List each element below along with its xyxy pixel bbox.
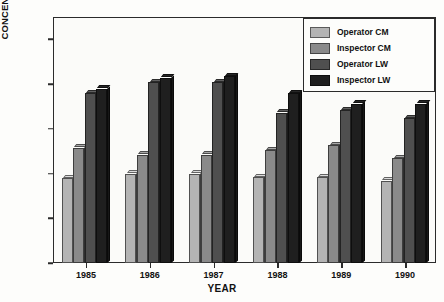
- bar-1990-operator-cm: [381, 181, 392, 263]
- x-tick-mark: [214, 263, 216, 268]
- bar-side: [171, 75, 174, 263]
- legend-swatch: [310, 59, 330, 70]
- bar-1985-inspector-cm: [73, 148, 84, 263]
- bar-side: [235, 73, 238, 263]
- bar-1989-operator-lw: [340, 110, 351, 263]
- bar-face: [189, 174, 200, 263]
- legend-label: Operator LW: [337, 59, 388, 69]
- bar-face: [276, 113, 287, 263]
- bar-face: [381, 181, 392, 263]
- bar-1988-operator-lw: [276, 113, 287, 263]
- legend-swatch: [310, 43, 330, 54]
- bar-1990-operator-lw: [404, 118, 415, 263]
- x-tick-label: 1987: [184, 270, 244, 280]
- legend-label: Inspector CM: [337, 43, 391, 53]
- y-axis-title-text: CONCENTRATION, mg/m: [0, 0, 10, 39]
- bar-1985-inspector-lw: [96, 89, 107, 263]
- bar-face: [85, 93, 96, 263]
- bar-face: [328, 145, 339, 263]
- bar-face: [96, 89, 107, 263]
- bar-1988-inspector-cm: [265, 150, 276, 263]
- bar-1989-inspector-cm: [328, 145, 339, 263]
- bar-face: [160, 78, 171, 263]
- bar-side: [107, 86, 110, 263]
- bar-side: [299, 90, 302, 263]
- x-tick-label: 1985: [56, 270, 116, 280]
- bar-face: [73, 148, 84, 263]
- bar-face: [224, 76, 235, 263]
- bar-1985-operator-cm: [62, 178, 73, 263]
- bar-face: [415, 104, 426, 263]
- bar-face: [404, 118, 415, 263]
- bar-1989-operator-cm: [317, 177, 328, 263]
- chart-root: CONCENTRATION, mg/m3 0.51.01.52.02.5 198…: [0, 0, 444, 302]
- bar-1987-operator-lw: [212, 82, 223, 263]
- bar-1987-inspector-cm: [201, 155, 212, 263]
- legend-swatch: [310, 75, 330, 86]
- legend: Operator CMInspector CMOperator LWInspec…: [303, 18, 435, 92]
- legend-label: Inspector LW: [337, 75, 390, 85]
- legend-item: Inspector LW: [310, 72, 434, 88]
- x-tick-mark: [86, 263, 88, 268]
- bar-face: [212, 82, 223, 263]
- bar-face: [351, 104, 362, 263]
- bar-1987-operator-cm: [189, 174, 200, 263]
- bar-1988-inspector-lw: [288, 93, 299, 263]
- bar-1986-inspector-cm: [137, 155, 148, 263]
- bar-face: [201, 155, 212, 263]
- bar-face: [265, 150, 276, 263]
- x-tick-mark: [277, 263, 279, 268]
- bar-face: [288, 93, 299, 263]
- bar-side: [362, 101, 365, 263]
- bar-1986-operator-cm: [125, 174, 136, 263]
- bar-1990-inspector-lw: [415, 104, 426, 263]
- bar-face: [125, 174, 136, 263]
- bar-face: [148, 82, 159, 263]
- bar-1986-operator-lw: [148, 82, 159, 263]
- bar-side: [426, 101, 429, 263]
- x-tick-label: 1988: [247, 270, 307, 280]
- bar-1987-inspector-lw: [224, 76, 235, 263]
- bar-face: [253, 177, 264, 263]
- bar-face: [62, 178, 73, 263]
- x-tick-mark: [150, 263, 152, 268]
- bar-top: [289, 90, 303, 93]
- x-tick-mark: [341, 263, 343, 268]
- bar-1989-inspector-lw: [351, 104, 362, 263]
- x-axis-title: YEAR: [0, 283, 444, 294]
- bar-1990-inspector-cm: [392, 158, 403, 263]
- bar-face: [137, 155, 148, 263]
- bar-1988-operator-cm: [253, 177, 264, 263]
- legend-label: Operator CM: [337, 27, 388, 37]
- legend-swatch: [310, 27, 330, 38]
- bar-face: [392, 158, 403, 263]
- legend-item: Operator CM: [310, 24, 434, 40]
- x-tick-label: 1989: [311, 270, 371, 280]
- bar-face: [317, 177, 328, 263]
- x-tick-label: 1990: [375, 270, 435, 280]
- legend-item: Inspector CM: [310, 40, 434, 56]
- legend-item: Operator LW: [310, 56, 434, 72]
- bar-face: [340, 110, 351, 263]
- bar-1985-operator-lw: [85, 93, 96, 263]
- bar-1986-inspector-lw: [160, 78, 171, 263]
- y-axis-title: CONCENTRATION, mg/m3: [0, 0, 10, 60]
- x-tick-mark: [405, 263, 407, 268]
- x-tick-label: 1986: [120, 270, 180, 280]
